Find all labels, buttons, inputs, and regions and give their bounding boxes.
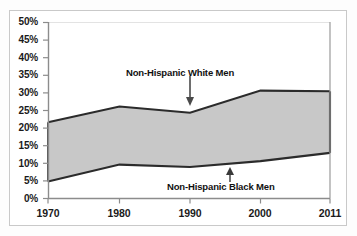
series-label-non-hispanic-black-men: Non-Hispanic Black Men xyxy=(167,181,275,192)
y-tick-label-35: 35% xyxy=(6,70,38,80)
y-tick-label-50: 50% xyxy=(6,17,38,27)
y-tick-label-40: 40% xyxy=(6,53,38,63)
y-tick-label-45: 45% xyxy=(6,35,38,45)
area-chart-svg xyxy=(0,0,357,236)
x-tick-label-1970: 1970 xyxy=(21,208,75,219)
y-tick-label-25: 25% xyxy=(6,106,38,116)
y-tick-label-30: 30% xyxy=(6,88,38,98)
y-tick-label-5: 5% xyxy=(6,176,38,186)
y-tick-label-15: 15% xyxy=(6,141,38,151)
x-tick-label-2000: 2000 xyxy=(233,208,287,219)
x-tick-label-2011: 2011 xyxy=(303,208,357,219)
y-tick-label-20: 20% xyxy=(6,123,38,133)
x-tick-marks xyxy=(48,199,330,204)
x-tick-label-1980: 1980 xyxy=(92,208,146,219)
y-tick-label-0: 0% xyxy=(6,194,38,204)
x-tick-label-1990: 1990 xyxy=(163,208,217,219)
chart-screenshot: 50% 45% 40% 35% 30% 25% 20% 15% 10% 5% 0… xyxy=(0,0,357,236)
chart-stage: 50% 45% 40% 35% 30% 25% 20% 15% 10% 5% 0… xyxy=(0,0,357,236)
series-label-non-hispanic-white-men: Non-Hispanic White Men xyxy=(126,67,234,78)
y-tick-label-10: 10% xyxy=(6,159,38,169)
